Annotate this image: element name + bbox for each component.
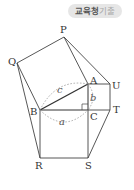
label-T: T	[113, 104, 120, 115]
label-C: C	[90, 111, 98, 122]
square-ABQP	[17, 37, 88, 110]
label-P: P	[60, 24, 67, 35]
side-label-b: b	[90, 92, 96, 103]
label-S: S	[85, 160, 92, 171]
label-Q: Q	[8, 56, 16, 67]
side-label-a: a	[59, 116, 65, 127]
right-triangle-ABC	[40, 84, 88, 110]
label-R: R	[35, 160, 43, 171]
side-length-arcs	[40, 83, 93, 122]
label-U: U	[112, 80, 120, 91]
side-label-c: c	[57, 84, 63, 95]
right-angle-mark	[82, 104, 88, 110]
label-A: A	[89, 75, 98, 86]
geometry-figure: P Q A U B C T R S c b a	[0, 0, 134, 190]
label-B: B	[30, 106, 37, 117]
